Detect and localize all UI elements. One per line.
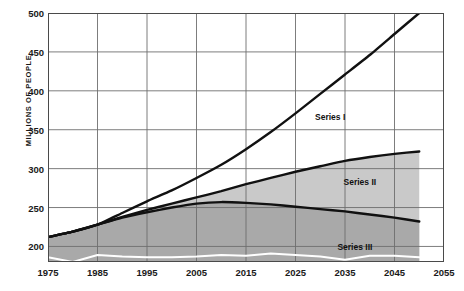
x-tick-label: 2015 [224, 267, 268, 278]
y-tick-label: 450 [4, 46, 44, 57]
chart-svg [48, 13, 444, 262]
y-axis-tick-labels: 500450400350300250200 [0, 0, 44, 291]
x-tick-label: 1975 [26, 267, 70, 278]
y-tick-label: 200 [4, 241, 44, 252]
x-tick-label: 2055 [422, 267, 464, 278]
y-tick-label: 400 [4, 85, 44, 96]
series-annotation-label: Series I [315, 112, 345, 122]
x-tick-label: 2045 [373, 267, 417, 278]
x-tick-label: 1995 [125, 267, 169, 278]
x-tick-label: 2035 [323, 267, 367, 278]
y-tick-label: 300 [4, 163, 44, 174]
series-annotation-label: Series II [344, 177, 377, 187]
y-tick-label: 250 [4, 202, 44, 213]
x-tick-label: 2025 [274, 267, 318, 278]
chart-container: MILLIONS OF PEOPLE 500450400350300250200… [0, 0, 464, 291]
y-tick-label: 350 [4, 124, 44, 135]
series-annotation-label: Series III [337, 242, 372, 252]
y-tick-label: 500 [4, 8, 44, 19]
plot-area [48, 13, 444, 262]
x-tick-label: 1985 [76, 267, 120, 278]
x-tick-label: 2005 [175, 267, 219, 278]
